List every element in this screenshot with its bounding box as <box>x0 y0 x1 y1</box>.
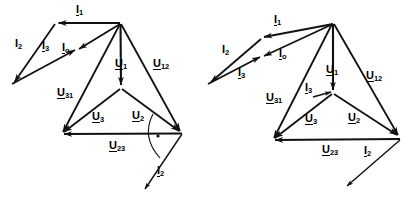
vector-I2-lower-right <box>347 140 400 186</box>
vector-I3-left <box>12 50 75 84</box>
vector-U12-left <box>121 24 180 131</box>
right-diagram-group <box>208 24 400 186</box>
label-I2-right: I2 <box>222 44 229 55</box>
label-U3-right: U3 <box>305 113 317 124</box>
vector-I2-left <box>15 24 56 82</box>
label-I3-left: I3 <box>42 40 49 51</box>
label-U12-left: U12 <box>153 58 169 69</box>
label-Io-right: Io <box>279 48 287 59</box>
vector-Io-right <box>264 24 333 56</box>
vector-U1-left <box>121 24 122 85</box>
label-U12-right: U12 <box>366 70 382 81</box>
vector-U23-left <box>64 134 182 135</box>
label-U1-right: U1 <box>326 64 338 75</box>
phasor-diagram-figure: I1 I2 I3 Io U1 U12 U31 U3 U2 U23 I2 I1 I… <box>0 0 410 210</box>
label-I2-lower-right: I2 <box>364 145 371 156</box>
label-U23-left: U23 <box>109 140 125 151</box>
label-I2-left: I2 <box>15 38 22 49</box>
vector-U23-right <box>275 139 400 140</box>
label-U2-right: U2 <box>348 112 360 123</box>
label-U31-right: U31 <box>266 92 282 103</box>
phasor-diagram-canvas <box>0 0 410 210</box>
label-Io-left: Io <box>62 42 70 53</box>
label-U23-right: U23 <box>322 144 338 155</box>
vector-U2-right <box>334 94 397 135</box>
label-I1-left: I1 <box>76 4 83 15</box>
label-I1-right: I1 <box>274 14 281 25</box>
label-U2-left: U2 <box>132 110 144 121</box>
label-I2-lower-left: I2 <box>157 165 164 176</box>
label-U31-left: U31 <box>57 87 73 98</box>
vector-U3-right <box>275 94 332 138</box>
label-I3-right: I3 <box>238 67 245 78</box>
label-U1-left: U1 <box>115 58 127 69</box>
angle-dot-marker-left <box>156 134 159 137</box>
label-I3-inner-right: I3 <box>305 82 312 93</box>
label-U3-left: U3 <box>92 111 104 122</box>
vector-U2-left <box>122 89 179 131</box>
vector-U31-right <box>274 24 332 138</box>
